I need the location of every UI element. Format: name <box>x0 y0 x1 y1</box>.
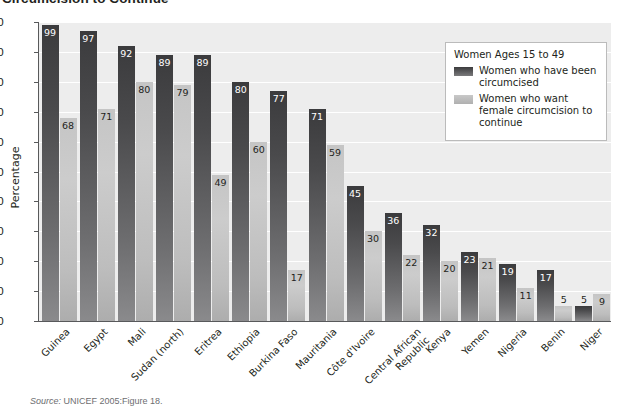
bar[interactable]: 21 <box>479 258 496 321</box>
bar[interactable]: 89 <box>156 55 173 321</box>
bar[interactable]: 99 <box>42 25 59 321</box>
bar-value-label: 71 <box>98 111 115 122</box>
bar-group: 8949 <box>194 22 229 321</box>
bar[interactable]: 9 <box>593 294 610 321</box>
bar[interactable]: 17 <box>537 270 554 321</box>
bar[interactable]: 59 <box>327 145 344 321</box>
bar-group: 9280 <box>118 22 153 321</box>
bar[interactable]: 49 <box>212 175 229 322</box>
bar[interactable]: 77 <box>270 91 287 321</box>
bar-value-label: 5 <box>575 294 592 305</box>
bar-value-label: 79 <box>174 87 191 98</box>
bar-group: 7159 <box>309 22 344 321</box>
legend-entries: Women who have been circumcisedWomen who… <box>454 65 599 129</box>
bar-value-label: 99 <box>42 27 59 38</box>
bar[interactable]: 89 <box>194 55 211 321</box>
source-text: UNICEF 2005:Figure 18. <box>61 396 163 406</box>
bar-value-label: 97 <box>80 33 97 44</box>
bar-group: 8979 <box>156 22 191 321</box>
bar[interactable]: 32 <box>423 225 440 321</box>
bar[interactable]: 80 <box>136 82 153 321</box>
legend-item[interactable]: Women who want female circumcision to co… <box>454 93 599 129</box>
bar[interactable]: 71 <box>98 109 115 321</box>
bar-value-label: 92 <box>118 48 135 59</box>
bar-value-label: 20 <box>441 263 458 274</box>
chart-legend: Women Ages 15 to 49 Women who have been … <box>445 42 607 141</box>
y-tick-label: 40 <box>0 195 4 207</box>
bar-value-label: 23 <box>461 254 478 265</box>
bar[interactable]: 80 <box>232 82 249 321</box>
bar-value-label: 77 <box>270 93 287 104</box>
y-tick-label: 10 <box>0 285 4 297</box>
bar-value-label: 22 <box>403 257 420 268</box>
bar-group: 3622 <box>385 22 420 321</box>
bar[interactable]: 5 <box>575 306 592 321</box>
bar-value-label: 68 <box>60 120 77 131</box>
bar[interactable]: 71 <box>309 109 326 321</box>
y-tick-label: 60 <box>0 136 4 148</box>
bar[interactable]: 97 <box>80 31 97 321</box>
bar-value-label: 59 <box>327 147 344 158</box>
bar-group: 9771 <box>80 22 115 321</box>
bar[interactable]: 5 <box>555 306 572 321</box>
bar-value-label: 45 <box>347 188 364 199</box>
bar-group: 4530 <box>347 22 382 321</box>
bar[interactable]: 19 <box>499 264 516 321</box>
bar[interactable]: 17 <box>288 270 305 321</box>
bar-group: 8060 <box>232 22 267 321</box>
legend-label: Women who have been circumcised <box>479 65 599 89</box>
bar[interactable]: 36 <box>385 213 402 321</box>
legend-item[interactable]: Women who have been circumcised <box>454 65 599 89</box>
bar-value-label: 49 <box>212 177 229 188</box>
bar-group: 9968 <box>42 22 77 321</box>
legend-label: Women who want female circumcision to co… <box>479 93 599 129</box>
bar-value-label: 89 <box>156 57 173 68</box>
bar[interactable]: 20 <box>441 261 458 321</box>
bar-group: 7717 <box>270 22 305 321</box>
bar[interactable]: 30 <box>365 231 382 321</box>
bar-value-label: 21 <box>479 260 496 271</box>
bar-value-label: 30 <box>365 233 382 244</box>
bar-value-label: 36 <box>385 215 402 226</box>
chart-figure: Circumcision to Continue Percentage 0102… <box>0 0 618 414</box>
bar[interactable]: 11 <box>517 288 534 321</box>
bar-value-label: 89 <box>194 57 211 68</box>
bar-value-label: 80 <box>232 84 249 95</box>
bar-value-label: 11 <box>517 290 534 301</box>
bar[interactable]: 45 <box>347 186 364 321</box>
source-note: Source: UNICEF 2005:Figure 18. <box>30 396 163 406</box>
bar-value-label: 80 <box>136 84 153 95</box>
page-title: Circumcision to Continue <box>2 0 169 6</box>
y-tick-label: 70 <box>0 106 4 118</box>
y-tick-label: 50 <box>0 166 4 178</box>
bar[interactable]: 60 <box>250 142 267 321</box>
bar[interactable]: 68 <box>60 118 77 321</box>
y-tick-label: 0 <box>0 315 4 327</box>
y-tick-label: 30 <box>0 225 4 237</box>
bar-value-label: 5 <box>555 294 572 305</box>
bar-value-label: 71 <box>309 111 326 122</box>
y-tick-label: 100 <box>0 16 4 28</box>
y-tick-label: 80 <box>0 76 4 88</box>
bar[interactable]: 79 <box>174 85 191 321</box>
y-axis-label: Percentage <box>9 118 22 238</box>
source-prefix: Source: <box>30 396 61 406</box>
bar-value-label: 9 <box>593 296 610 307</box>
bar-value-label: 17 <box>288 272 305 283</box>
bar-value-label: 17 <box>537 272 554 283</box>
legend-swatch-dark <box>454 67 473 76</box>
bar[interactable]: 92 <box>118 46 135 321</box>
legend-swatch-light <box>454 95 473 104</box>
bar-value-label: 19 <box>499 266 516 277</box>
y-tick-label: 90 <box>0 46 4 58</box>
bar[interactable]: 23 <box>461 252 478 321</box>
bar-value-label: 60 <box>250 144 267 155</box>
bar-value-label: 32 <box>423 227 440 238</box>
legend-title: Women Ages 15 to 49 <box>454 49 599 60</box>
y-tick-label: 20 <box>0 255 4 267</box>
bar[interactable]: 22 <box>403 255 420 321</box>
